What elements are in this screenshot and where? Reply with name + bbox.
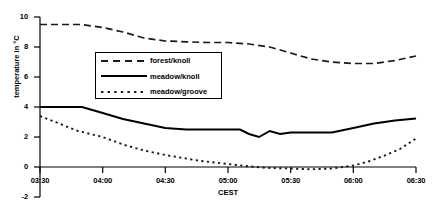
y-axis-title: temperature in °C — [12, 15, 21, 119]
y-tick-label: 0 — [2, 162, 28, 171]
legend-dashed-line-icon — [100, 55, 148, 67]
legend-label: meadow/groove — [150, 87, 207, 96]
x-tick-label: 05:30 — [271, 176, 311, 185]
x-tick-label: 05:00 — [208, 176, 248, 185]
y-tick-label: 2 — [2, 132, 28, 141]
x-tick-label: 03:30 — [20, 176, 60, 185]
x-axis-title: CEST — [208, 188, 248, 197]
legend-solid-line-icon — [100, 70, 148, 82]
x-tick-label: 06:30 — [396, 176, 432, 185]
x-tick-label: 04:00 — [83, 176, 123, 185]
legend-entry-meadow-knoll: meadow/knoll — [96, 69, 221, 85]
legend: forest/knoll meadow/knoll meadow/groove — [95, 52, 222, 99]
legend-label: meadow/knoll — [150, 72, 200, 81]
x-tick-label: 06:00 — [333, 176, 373, 185]
y-axis-ticks — [34, 17, 40, 197]
series-line-meadow-groove — [40, 116, 416, 169]
x-axis-ticks — [40, 167, 416, 173]
legend-label: forest/knoll — [150, 56, 190, 65]
x-tick-label: 04:30 — [145, 176, 185, 185]
legend-dotted-line-icon — [100, 86, 148, 98]
series-line-meadow-knoll — [40, 107, 416, 137]
legend-entry-forest-knoll: forest/knoll — [96, 53, 221, 69]
temperature-line-chart: 10 8 6 4 2 0 -2 03:30 04:00 04:30 05:00 … — [0, 0, 432, 217]
y-tick-label: -2 — [2, 192, 28, 201]
legend-entry-meadow-groove: meadow/groove — [96, 84, 221, 100]
